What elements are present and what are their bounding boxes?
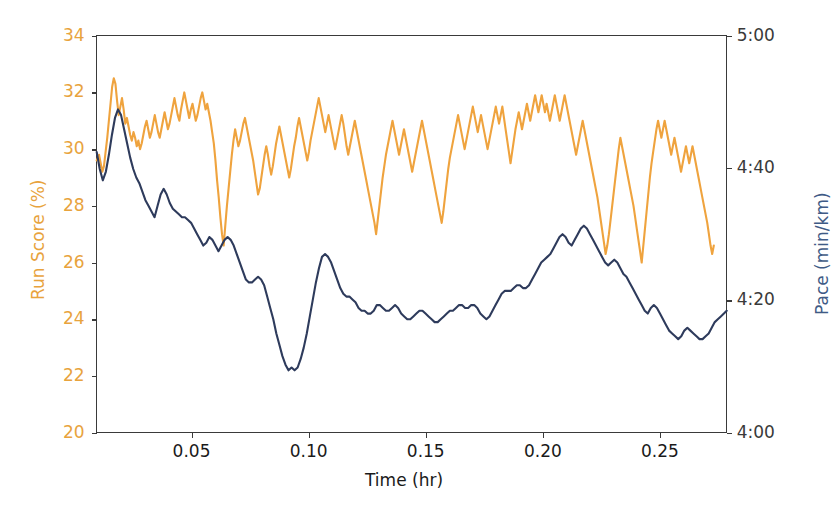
series-line-pace <box>97 109 727 370</box>
series-line-run-score <box>97 78 714 262</box>
chart-plot-area <box>0 0 831 506</box>
chart-figure: 2022242628303234 4:004:204:405:00 0.050.… <box>0 0 831 506</box>
